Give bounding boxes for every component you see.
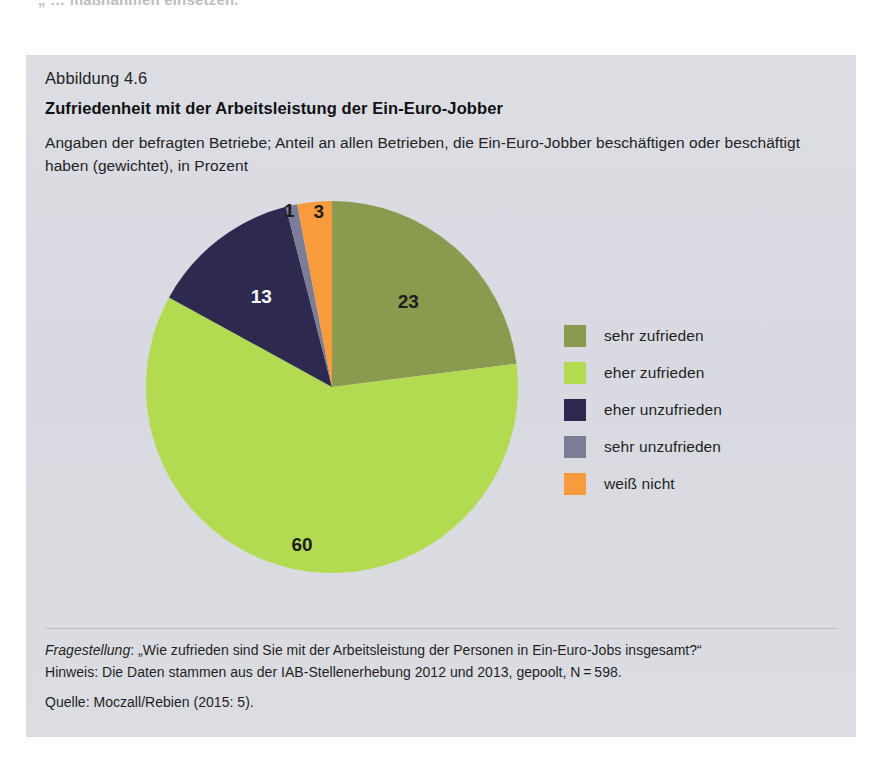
figure-title: Zufriedenheit mit der Arbeitsleistung de… [45, 99, 503, 118]
legend-swatch-icon [564, 399, 586, 421]
page-running-text: „ … maßnahmen einsetzen. [38, 0, 239, 8]
legend-item: sehr unzufrieden [564, 436, 834, 458]
chart-area: 23601313 sehr zufriedeneher zufriedenehe… [26, 200, 856, 620]
legend-swatch-icon [564, 473, 586, 495]
pie-slice [332, 201, 517, 387]
legend-swatch-icon [564, 362, 586, 384]
pie-slice-label: 1 [284, 200, 295, 221]
legend-item-label: eher unzufrieden [604, 401, 722, 419]
footnote-question-label: Fragestellung [45, 642, 130, 658]
legend-item: eher zufrieden [564, 362, 834, 384]
figure-number: Abbildung 4.6 [45, 69, 147, 88]
figure-box: Abbildung 4.6 Zufriedenheit mit der Arbe… [26, 55, 856, 737]
footer-divider [45, 628, 837, 629]
footnote-question-text: : „Wie zufrieden sind Sie mit der Arbeit… [130, 642, 702, 658]
legend-swatch-icon [564, 436, 586, 458]
legend-item-label: sehr zufrieden [604, 327, 704, 345]
legend-item: weiß nicht [564, 473, 834, 495]
pie-slice-label: 3 [313, 201, 324, 222]
pie-chart-svg: 23601313 [145, 200, 519, 574]
footnote-question: Fragestellung: „Wie zufrieden sind Sie m… [45, 640, 845, 662]
pie-slice-group [146, 201, 518, 573]
legend-item: sehr zufrieden [564, 325, 834, 347]
pie-slice-label: 23 [398, 291, 419, 312]
legend-item: eher unzufrieden [564, 399, 834, 421]
legend-item-label: sehr unzufrieden [604, 438, 721, 456]
legend-swatch-icon [564, 325, 586, 347]
pie-chart: 23601313 [145, 200, 519, 574]
legend-item-label: eher zufrieden [604, 364, 705, 382]
pie-slice-label: 13 [251, 286, 272, 307]
footnote-note: Hinweis: Die Daten stammen aus der IAB-S… [45, 662, 845, 684]
legend-item-label: weiß nicht [604, 475, 675, 493]
figure-subtitle: Angaben der befragten Betriebe; Anteil a… [45, 131, 825, 178]
pie-slice-label: 60 [291, 534, 312, 555]
footnote-source: Quelle: Moczall/Rebien (2015: 5). [45, 692, 845, 714]
legend: sehr zufriedeneher zufriedeneher unzufri… [564, 325, 834, 510]
figure-footer: Fragestellung: „Wie zufrieden sind Sie m… [45, 640, 845, 714]
